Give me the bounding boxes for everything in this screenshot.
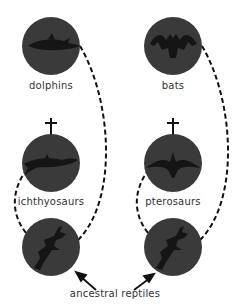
- label-dolphins: dolphins: [29, 80, 73, 91]
- label-ancestral-reptiles: ancestral reptiles: [70, 288, 160, 299]
- lineage-reptile-to-bats: [200, 46, 228, 240]
- lineage-reptile-to-dolphins: [78, 46, 106, 240]
- label-pterosaurs: pterosaurs: [145, 196, 200, 207]
- extinct-cross-icon: [45, 118, 179, 134]
- label-ichthyosaurs: ichthyosaurs: [18, 196, 84, 207]
- evolution-diagram: [0, 0, 246, 307]
- label-bats: bats: [162, 80, 184, 91]
